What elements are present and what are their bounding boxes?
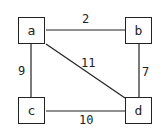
node-d-label: d — [135, 103, 143, 118]
edge-c-d-weight: 10 — [79, 114, 93, 126]
edge-a-b-weight: 2 — [82, 13, 89, 25]
node-b: b — [125, 17, 152, 44]
node-d: d — [125, 97, 152, 124]
edge-a-d — [46, 44, 125, 98]
edge-b-d-weight: 7 — [142, 66, 149, 78]
node-c: c — [18, 97, 45, 124]
weighted-graph-diagram: a b c d 2 9 11 7 10 — [0, 0, 163, 139]
node-b-label: b — [135, 23, 143, 38]
edge-a-c-weight: 9 — [18, 65, 25, 77]
edge-a-d-weight: 11 — [81, 57, 95, 69]
node-a-label: a — [28, 23, 36, 38]
node-a: a — [18, 17, 45, 44]
node-c-label: c — [28, 103, 36, 118]
